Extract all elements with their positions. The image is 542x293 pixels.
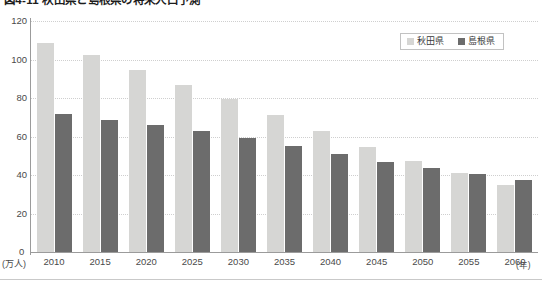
- bar-秋田県-2055[interactable]: [451, 173, 468, 252]
- bar-秋田県-2010[interactable]: [37, 43, 54, 252]
- bar-島根県-2020[interactable]: [147, 125, 164, 252]
- bar-group-2035: [267, 21, 302, 252]
- x-axis-line: [30, 252, 538, 253]
- y-tick-label-40: 40: [1, 170, 27, 180]
- x-tick-label-2010: 2010: [31, 257, 77, 267]
- x-tick-label-2030: 2030: [215, 257, 261, 267]
- bar-島根県-2050[interactable]: [423, 168, 440, 252]
- x-tick-label-2015: 2015: [77, 257, 123, 267]
- bar-group-2050: [405, 21, 440, 252]
- bar-島根県-2060[interactable]: [515, 180, 532, 252]
- y-tick-label-80: 80: [1, 93, 27, 103]
- legend-label: 島根県: [468, 37, 495, 46]
- legend-label: 秋田県: [417, 37, 444, 46]
- bar-島根県-2040[interactable]: [331, 154, 348, 252]
- bar-group-2010: [37, 21, 72, 252]
- bar-島根県-2055[interactable]: [469, 174, 486, 252]
- figure-bottom-rule: [0, 279, 542, 280]
- legend-swatch-icon-島根県: [458, 38, 465, 45]
- bar-group-2055: [451, 21, 486, 252]
- bar-group-2060: [497, 21, 532, 252]
- x-axis-tick-labels: 2010201520202025203020352040204520502055…: [31, 257, 538, 273]
- bar-秋田県-2035[interactable]: [267, 115, 284, 252]
- legend-item-島根県[interactable]: 島根県: [458, 37, 495, 46]
- x-tick-label-2045: 2045: [354, 257, 400, 267]
- figure-container: 図4-11 秋田県と島根県の将来人口予測 20406080100120 0 20…: [0, 0, 542, 293]
- x-tick-label-2020: 2020: [123, 257, 169, 267]
- x-tick-label-2055: 2055: [446, 257, 492, 267]
- bar-島根県-2010[interactable]: [55, 114, 72, 252]
- x-tick-label-2025: 2025: [169, 257, 215, 267]
- y-tick-label-120: 120: [1, 16, 27, 26]
- bar-島根県-2035[interactable]: [285, 146, 302, 252]
- bar-秋田県-2045[interactable]: [359, 147, 376, 252]
- y-tick-label-60: 60: [1, 132, 27, 142]
- bar-島根県-2025[interactable]: [193, 131, 210, 252]
- bar-秋田県-2015[interactable]: [83, 55, 100, 252]
- y-tick-label-20: 20: [1, 209, 27, 219]
- bar-秋田県-2020[interactable]: [129, 70, 146, 252]
- legend-item-秋田県[interactable]: 秋田県: [407, 37, 444, 46]
- y-axis-zero-label: 0: [19, 247, 24, 257]
- chart-title: 図4-11 秋田県と島根県の将来人口予測: [4, 0, 201, 7]
- bar-秋田県-2030[interactable]: [221, 99, 238, 252]
- bars-layer: [31, 21, 538, 252]
- bar-秋田県-2025[interactable]: [175, 85, 192, 252]
- x-tick-label-2060: 2060: [492, 257, 538, 267]
- bar-島根県-2045[interactable]: [377, 162, 394, 252]
- bar-group-2030: [221, 21, 256, 252]
- legend-swatch-icon-秋田県: [407, 38, 414, 45]
- bar-group-2025: [175, 21, 210, 252]
- bar-島根県-2030[interactable]: [239, 138, 256, 252]
- x-tick-label-2050: 2050: [400, 257, 446, 267]
- bar-group-2040: [313, 21, 348, 252]
- y-axis-unit-label: (万人): [2, 257, 26, 270]
- bar-秋田県-2050[interactable]: [405, 161, 422, 252]
- y-tick-label-100: 100: [1, 55, 27, 65]
- bar-group-2045: [359, 21, 394, 252]
- bar-group-2020: [129, 21, 164, 252]
- bar-秋田県-2040[interactable]: [313, 131, 330, 252]
- bar-島根県-2015[interactable]: [101, 120, 118, 252]
- chart-legend: 秋田県島根県: [400, 33, 504, 50]
- x-tick-label-2040: 2040: [308, 257, 354, 267]
- x-tick-label-2035: 2035: [261, 257, 307, 267]
- bar-group-2015: [83, 21, 118, 252]
- x-axis-unit-label: (年): [516, 258, 531, 270]
- bar-秋田県-2060[interactable]: [497, 185, 514, 252]
